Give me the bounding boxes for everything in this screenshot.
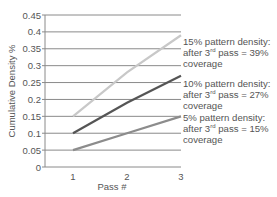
annotation-line: coverage [183,58,270,69]
annotation-line: 5% pattern density: [183,112,269,123]
y-tick-label: 0.25 [23,77,42,88]
y-tick-label: 0.3 [28,60,41,71]
annotation-line: coverage [183,100,270,111]
annotation-10pct: 10% pattern density: after 3rd pass = 27… [183,78,270,112]
annotation-line: 10% pattern density: [183,78,270,89]
annotation-line: 15% pattern density: [183,36,270,47]
x-tick-label: 3 [178,171,183,182]
annotation-line: coverage [183,134,269,145]
y-tick-label: 0.05 [23,145,42,156]
annotation-line: after 3rd pass = 27% [183,89,270,100]
y-tick-label: 0 [36,162,41,173]
series-line [73,35,181,116]
y-axis-label: Cumulative Density % [6,44,17,137]
annotation-5pct: 5% pattern density: after 3rd pass = 15%… [183,112,269,146]
gridlines [42,15,181,167]
x-axis-label: Pass # [97,181,127,192]
annotation-line: after 3rd pass = 39% [183,47,270,58]
y-tick-label: 0.45 [23,10,42,21]
y-tick-label: 0.15 [23,111,42,122]
x-tick-label: 1 [70,171,75,182]
y-tick-label: 0.1 [28,128,41,139]
x-axis-ticks: 123 [70,171,183,182]
annotation-line: after 3rd pass = 15% [183,123,269,134]
y-tick-label: 0.35 [23,43,42,54]
y-tick-label: 0.2 [28,94,41,105]
y-axis-ticks: 00.050.10.150.20.250.30.350.40.45 [23,10,42,173]
y-tick-label: 0.4 [28,26,41,37]
annotation-15pct: 15% pattern density: after 3rd pass = 39… [183,36,270,70]
